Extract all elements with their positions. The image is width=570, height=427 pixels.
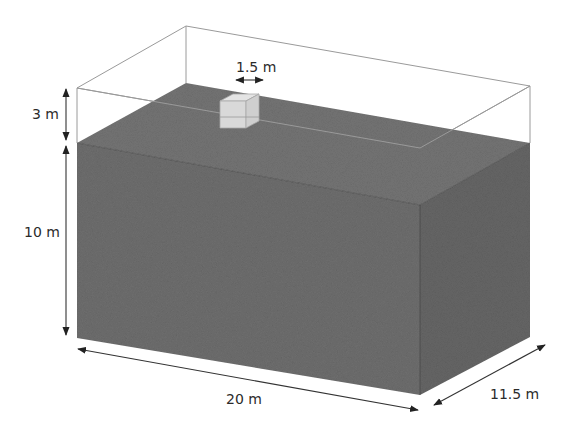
block-width-label: 1.5 m [236, 59, 276, 75]
cube-front-face [220, 101, 246, 128]
dimension-block-width: 1.5 m [236, 59, 276, 80]
soil-block [77, 83, 530, 395]
soil-domain-diagram: 1.5 m 3 m 10 m 20 m 11.5 m [0, 0, 570, 427]
soil-depth-label: 10 m [24, 224, 60, 240]
air-height-label: 3 m [32, 106, 59, 122]
width-label: 11.5 m [490, 386, 539, 402]
dimension-air-height: 3 m [32, 89, 66, 140]
surface-cube [220, 94, 259, 128]
dimension-soil-depth: 10 m [24, 146, 66, 335]
length-label: 20 m [226, 391, 262, 407]
